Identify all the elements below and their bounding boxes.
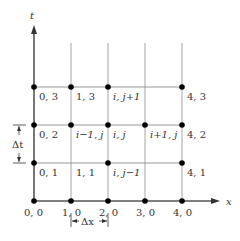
label-2-0: 2, 0 <box>99 207 118 218</box>
node-1-0 <box>68 198 74 204</box>
node-0-0 <box>31 198 37 204</box>
node-2-0 <box>105 198 111 204</box>
label-1-0: 1, 0 <box>62 207 81 218</box>
dx-arrow-left-icon <box>72 219 77 223</box>
label-iminus1-j: i−1, j <box>76 129 103 140</box>
x-axis-label: x <box>226 196 232 207</box>
label-1-3: 1, 3 <box>76 91 95 102</box>
t-axis-arrow-icon <box>31 25 37 34</box>
node-4-2 <box>179 122 185 128</box>
node-4-3 <box>179 84 185 90</box>
dt-arrow-up-icon <box>17 126 21 131</box>
label-4-3: 4, 3 <box>187 91 206 102</box>
label-0-2: 0, 2 <box>39 129 58 140</box>
fd-grid-diagram: t x 0, 0 1, 0 2, 0 3, 0 4, 0 0, 1 1, 1 i… <box>0 0 240 241</box>
node-labels: 0, 0 1, 0 2, 0 3, 0 4, 0 0, 1 1, 1 i, j−… <box>24 91 206 218</box>
dx-label: Δx <box>81 216 94 227</box>
label-1-1: 1, 1 <box>76 167 95 178</box>
dt-label: Δt <box>12 139 23 150</box>
node-1-3 <box>68 84 74 90</box>
label-4-1: 4, 1 <box>187 167 206 178</box>
label-0-3: 0, 3 <box>39 91 58 102</box>
t-axis-label: t <box>30 10 35 21</box>
label-3-0: 3, 0 <box>136 207 155 218</box>
node-2-2 <box>105 122 111 128</box>
dt-label-text: Δt <box>12 139 23 150</box>
x-axis-arrow-icon <box>211 198 220 204</box>
node-2-1 <box>105 160 111 166</box>
dt-arrow-down-icon <box>17 157 21 162</box>
node-3-2 <box>142 122 148 128</box>
label-i-jminus1: i, j−1 <box>113 167 140 178</box>
label-4-2: 4, 2 <box>187 129 206 140</box>
label-0-0: 0, 0 <box>24 207 43 218</box>
node-2-3 <box>105 84 111 90</box>
label-iplus1-j: i+1, j <box>150 129 177 140</box>
label-i-j: i, j <box>113 129 126 140</box>
dx-arrow-right-icon <box>102 219 107 223</box>
label-0-1: 0, 1 <box>39 167 58 178</box>
node-4-0 <box>179 198 185 204</box>
node-4-1 <box>179 160 185 166</box>
node-3-0 <box>142 198 148 204</box>
node-0-2 <box>31 122 37 128</box>
label-4-0: 4, 0 <box>173 207 192 218</box>
node-0-3 <box>31 84 37 90</box>
label-i-jplus1: i, j+1 <box>113 91 140 102</box>
node-0-1 <box>31 160 37 166</box>
dx-label-text: Δx <box>81 216 94 227</box>
node-1-2 <box>68 122 74 128</box>
